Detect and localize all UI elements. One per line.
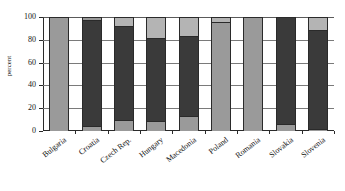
bar-segment <box>276 17 296 124</box>
x-axis-tick <box>205 131 206 134</box>
x-axis-tick <box>334 131 335 134</box>
x-axis-tick <box>75 131 76 134</box>
bar-segment <box>243 17 263 131</box>
y-axis-tick-label: 20 <box>12 104 36 112</box>
x-axis-tick <box>172 131 173 134</box>
bar[interactable] <box>49 17 69 131</box>
bar[interactable] <box>308 17 328 131</box>
bar-segment <box>146 121 166 131</box>
bar-segment <box>49 17 69 131</box>
bar-segment <box>308 129 328 131</box>
bar-chart: percent 020406080100 BulgariaCroatiaCzec… <box>0 0 345 191</box>
bar[interactable] <box>211 17 231 131</box>
bar-segment <box>211 22 231 131</box>
bar-segment <box>146 17 166 38</box>
y-axis-tick <box>39 131 43 132</box>
bar[interactable] <box>114 17 134 131</box>
bar-segment <box>114 26 134 119</box>
bar-segment <box>114 17 134 26</box>
bar-segment <box>146 38 166 121</box>
x-axis-tick <box>269 131 270 134</box>
bar-segment <box>82 17 102 20</box>
x-axis-tick <box>140 131 141 134</box>
bar-segment <box>179 36 199 116</box>
x-axis-tick <box>237 131 238 134</box>
bar-segment <box>308 30 328 129</box>
bar-segment <box>179 116 199 131</box>
y-axis-tick-label: 80 <box>12 36 36 44</box>
bar[interactable] <box>82 17 102 131</box>
bar[interactable] <box>146 17 166 131</box>
bar[interactable] <box>276 17 296 131</box>
plot-area <box>43 17 334 131</box>
bar[interactable] <box>179 17 199 131</box>
bar-segment <box>114 120 134 131</box>
bar-segment <box>82 126 102 131</box>
bar-segment <box>82 20 102 126</box>
x-axis-tick <box>302 131 303 134</box>
bar-segment <box>179 17 199 36</box>
bar-segment <box>276 124 296 131</box>
y-axis-tick-label: 100 <box>12 13 36 21</box>
y-axis-tick-label: 60 <box>12 59 36 67</box>
bar-segment <box>211 17 231 22</box>
bar-segment <box>308 17 328 30</box>
x-axis-tick <box>108 131 109 134</box>
bar[interactable] <box>243 17 263 131</box>
y-axis-tick-label: 40 <box>12 81 36 89</box>
y-axis-tick-label: 0 <box>12 127 36 135</box>
